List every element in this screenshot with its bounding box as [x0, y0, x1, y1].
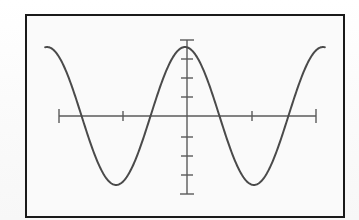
figure-page	[0, 0, 359, 220]
graph-plot	[27, 16, 343, 216]
plot-surface	[27, 16, 343, 216]
figure-frame	[25, 14, 345, 218]
figure-caption	[0, 0, 1, 1]
